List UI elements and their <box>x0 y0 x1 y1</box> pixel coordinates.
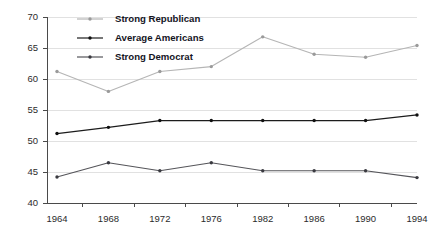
line-chart: 40455055606570 1964196819721976198219861… <box>0 0 432 239</box>
data-point-avg <box>364 119 367 122</box>
data-point-dem <box>312 169 315 172</box>
data-point-rep <box>415 44 418 47</box>
data-point-rep <box>55 70 58 73</box>
y-tick-label: 45 <box>27 166 38 177</box>
data-point-avg <box>415 113 418 116</box>
y-axis-tick-marks <box>43 17 47 203</box>
chart-legend: Strong RepublicanAverage AmericansStrong… <box>77 13 204 62</box>
gridlines <box>47 17 417 203</box>
data-point-rep <box>158 70 161 73</box>
legend-label-rep: Strong Republican <box>115 13 200 24</box>
data-point-dem <box>364 169 367 172</box>
y-tick-label: 40 <box>27 197 38 208</box>
series-line-dem <box>57 163 417 178</box>
x-axis-tick-marks <box>83 203 392 207</box>
legend-marker-avg <box>88 36 91 39</box>
data-point-avg <box>158 119 161 122</box>
x-tick-label: 1982 <box>252 213 273 224</box>
data-point-dem <box>158 169 161 172</box>
legend-marker-dem <box>88 55 91 58</box>
chart-canvas: 40455055606570 1964196819721976198219861… <box>0 0 432 239</box>
data-point-avg <box>210 119 213 122</box>
series-line-rep <box>57 37 417 92</box>
legend-marker-rep <box>88 17 91 20</box>
x-tick-label: 1994 <box>406 213 427 224</box>
y-axis-tick-labels: 40455055606570 <box>27 11 38 208</box>
data-point-rep <box>261 35 264 38</box>
x-axis-tick-labels: 19641968197219761982198619901994 <box>46 213 427 224</box>
data-point-rep <box>312 53 315 56</box>
y-tick-label: 55 <box>27 104 38 115</box>
y-tick-label: 65 <box>27 42 38 53</box>
x-tick-label: 1972 <box>149 213 170 224</box>
data-point-rep <box>364 56 367 59</box>
data-point-avg <box>107 126 110 129</box>
series-line-avg <box>57 115 417 134</box>
x-tick-label: 1976 <box>201 213 222 224</box>
x-tick-label: 1990 <box>355 213 376 224</box>
y-tick-label: 60 <box>27 73 38 84</box>
y-tick-label: 70 <box>27 11 38 22</box>
legend-label-avg: Average Americans <box>115 32 204 43</box>
data-point-dem <box>210 161 213 164</box>
data-point-rep <box>210 65 213 68</box>
data-point-avg <box>261 119 264 122</box>
x-tick-label: 1968 <box>98 213 119 224</box>
data-point-dem <box>55 175 58 178</box>
x-tick-label: 1964 <box>46 213 67 224</box>
data-point-dem <box>261 169 264 172</box>
x-tick-label: 1986 <box>304 213 325 224</box>
data-point-rep <box>107 90 110 93</box>
data-series <box>55 35 418 179</box>
y-tick-label: 50 <box>27 135 38 146</box>
legend-label-dem: Strong Democrat <box>115 51 194 62</box>
data-point-avg <box>55 132 58 135</box>
data-point-dem <box>107 161 110 164</box>
data-point-avg <box>312 119 315 122</box>
data-point-dem <box>415 176 418 179</box>
